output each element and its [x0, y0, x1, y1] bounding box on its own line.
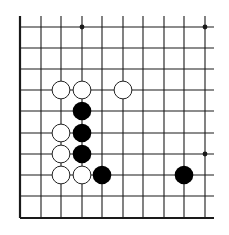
- white-stone-icon: [52, 124, 70, 142]
- white-stone-icon: [52, 81, 70, 99]
- black-stone-icon: [73, 102, 92, 121]
- star-point-icon: [203, 152, 208, 157]
- board-grid: [20, 16, 214, 218]
- black-stone-icon: [175, 166, 194, 185]
- white-stone-icon: [52, 145, 70, 163]
- star-point-icon: [203, 25, 208, 30]
- white-stone-icon: [52, 166, 70, 184]
- white-stone-icon: [73, 81, 91, 99]
- go-board: [0, 0, 229, 235]
- star-point-icon: [80, 25, 85, 30]
- white-stone-icon: [114, 81, 132, 99]
- white-stone-icon: [73, 166, 91, 184]
- black-stone-icon: [73, 124, 92, 143]
- black-stone-icon: [93, 166, 112, 185]
- black-stone-icon: [73, 145, 92, 164]
